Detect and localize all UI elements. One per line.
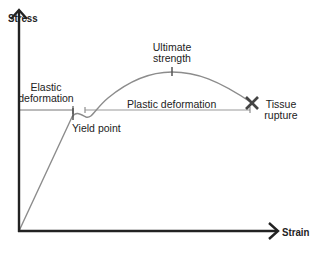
ultimate-strength-label: Ultimate strength [147,42,197,64]
x-axis [18,223,278,239]
ultimate-label-line2: strength [147,53,197,64]
stress-strain-diagram [0,0,314,254]
rupture-label-line2: rupture [261,110,301,121]
elastic-deformation-label: Elastic deformation [18,82,74,104]
yield-point-label: Yield point [72,123,121,134]
y-axis [11,10,27,232]
y-axis-label: Stress [8,12,38,24]
x-mark-icon [246,97,258,109]
tissue-rupture-label: Tissue rupture [261,99,301,121]
plastic-deformation-label: Plastic deformation [127,99,216,110]
x-axis-label: Strain [282,226,309,238]
elastic-label-line2: deformation [18,93,74,104]
